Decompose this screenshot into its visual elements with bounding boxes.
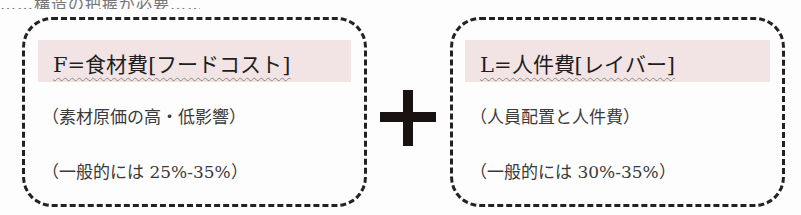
clipped-top-text: ……構造の把握が必要…… bbox=[0, 0, 200, 9]
labor-cost-range: （一般的には 30%-35%） bbox=[470, 158, 676, 183]
plus-vertical-bar bbox=[403, 90, 413, 146]
labor-cost-heading: L=人件費[レイバー] bbox=[480, 48, 675, 78]
labor-cost-box: L=人件費[レイバー] （人員配置と人件費） （一般的には 30%-35%） bbox=[450, 17, 785, 207]
food-cost-description: （素材原価の高・低影響） bbox=[42, 103, 246, 128]
plus-icon bbox=[380, 90, 436, 146]
labor-cost-heading-band: L=人件費[レイバー] bbox=[465, 40, 770, 82]
food-cost-heading-band: F=食材費[フードコスト] bbox=[38, 40, 351, 82]
labor-cost-description: （人員配置と人件費） bbox=[470, 103, 640, 128]
food-cost-heading: F=食材費[フードコスト] bbox=[53, 48, 291, 78]
food-cost-range: （一般的には 25%-35%） bbox=[42, 158, 248, 183]
food-cost-box: F=食材費[フードコスト] （素材原価の高・低影響） （一般的には 25%-35… bbox=[22, 17, 367, 207]
